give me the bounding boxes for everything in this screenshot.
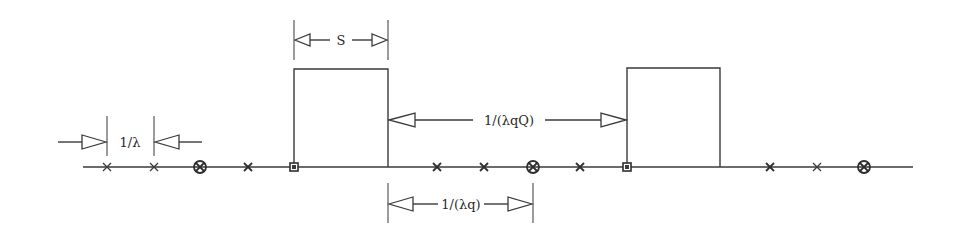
pulse-width-label: S xyxy=(337,33,346,48)
queue-timeline-diagram: S 1/λ 1/(λqQ) 1/(λq) xyxy=(0,0,967,246)
dimension-selected-interval: 1/(λq) xyxy=(388,183,533,223)
service-pulse-1 xyxy=(294,69,388,167)
boxed-square-icon xyxy=(623,163,631,171)
dimension-inter-pulse-interval: 1/(λqQ) xyxy=(389,113,626,128)
dimension-pulse-width: S xyxy=(294,20,388,60)
dimension-arrival-interval: 1/λ xyxy=(58,116,202,156)
selected-interval-label: 1/(λq) xyxy=(441,197,480,212)
arrival-interval-label: 1/λ xyxy=(120,135,141,150)
boxed-square-icon xyxy=(290,163,298,171)
service-pulse-2 xyxy=(627,68,720,167)
inter-pulse-interval-label: 1/(λqQ) xyxy=(484,113,534,128)
